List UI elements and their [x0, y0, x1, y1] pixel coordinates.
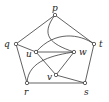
- node-label-t: t: [99, 39, 103, 49]
- edge-v-s: [56, 75, 85, 83]
- node-r: [25, 81, 28, 84]
- graph-diagram: pqtuwvrs: [0, 0, 109, 102]
- node-u: [34, 50, 37, 53]
- node-v: [54, 73, 57, 76]
- node-s: [83, 81, 86, 84]
- node-w: [72, 50, 75, 53]
- node-label-s: s: [84, 87, 89, 97]
- node-label-p: p: [52, 3, 58, 13]
- node-label-w: w: [79, 47, 87, 57]
- edge-p-q: [16, 15, 55, 44]
- node-label-v: v: [47, 72, 52, 82]
- node-t: [92, 42, 95, 45]
- edge-u-v: [36, 52, 56, 75]
- node-label-q: q: [4, 39, 10, 49]
- edge-v-w: [56, 52, 74, 75]
- edge-p-w: [48, 15, 74, 52]
- node-label-u: u: [26, 49, 32, 59]
- node-q: [14, 42, 17, 45]
- node-label-r: r: [24, 87, 29, 97]
- node-p: [53, 13, 56, 16]
- edge-p-t: [55, 15, 94, 44]
